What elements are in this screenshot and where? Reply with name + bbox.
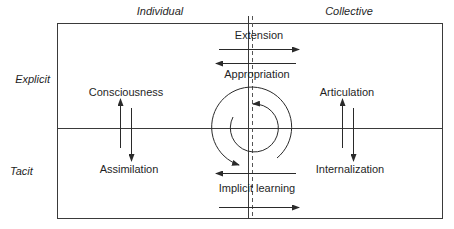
label-assimilation: Assimilation [100, 163, 159, 175]
row-header-explicit: Explicit [15, 73, 51, 85]
label-consciousness: Consciousness [89, 86, 164, 98]
label-appropriation: Appropriation [224, 68, 289, 80]
knowledge-cycle-diagram: Individual Collective Explicit Tacit Con… [0, 0, 454, 229]
label-implicit-learning: Implicit learning [219, 182, 295, 194]
column-header-collective: Collective [325, 5, 373, 17]
label-extension: Extension [235, 29, 283, 41]
label-internalization: Internalization [316, 163, 385, 175]
column-header-individual: Individual [137, 5, 184, 17]
label-articulation: Articulation [320, 86, 374, 98]
cycle-outer-arc [212, 87, 292, 165]
row-header-tacit: Tacit [10, 165, 34, 177]
cycle-inner-arc [230, 104, 278, 152]
